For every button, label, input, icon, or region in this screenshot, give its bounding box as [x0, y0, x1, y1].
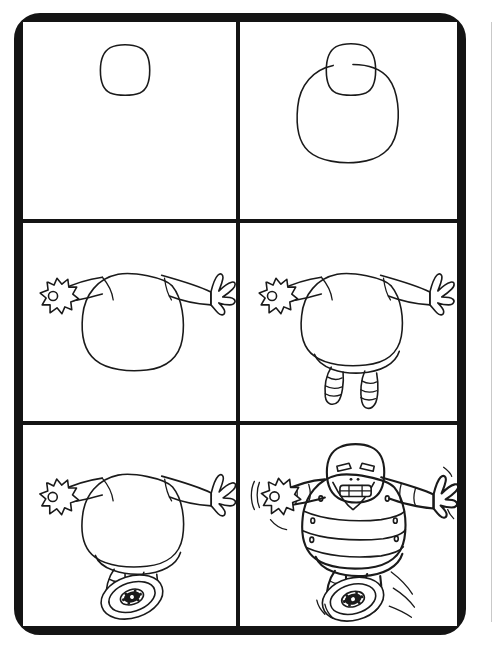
bolted-grin-icon	[340, 485, 371, 496]
panel-step-6[interactable]: Finish: add the face with slit eyes, nos…	[240, 425, 457, 626]
open-hand-icon	[434, 476, 457, 518]
panel-5-drawing	[23, 425, 236, 626]
nostril-left-icon	[350, 478, 353, 481]
saw-blade-hand-icon	[40, 479, 79, 515]
panel-step-1[interactable]: Draw the head: a small rounded dome shap…	[23, 22, 240, 223]
left-shoulder-seam	[321, 278, 332, 301]
drawing-tutorial-sheet: How to Draw a Robot Draw the head: a sma…	[0, 0, 496, 659]
panel-1-drawing	[23, 22, 236, 219]
panel-6-drawing	[240, 425, 457, 626]
open-hand-icon	[211, 274, 235, 315]
nostril-right-icon	[357, 478, 360, 481]
right-arm-icon	[381, 276, 430, 306]
adjacent-page-edge	[491, 22, 492, 622]
armor-bands-icon	[303, 511, 406, 556]
slit-eye-left-icon	[337, 463, 351, 471]
open-hand-icon	[211, 474, 235, 515]
body-outline-icon	[297, 64, 398, 162]
panel-4-drawing	[240, 223, 457, 420]
body-outline-icon	[82, 274, 183, 371]
panel-step-3[interactable]: Add both outstretched arms: left arm end…	[23, 223, 240, 424]
left-shoulder-seam	[102, 278, 113, 301]
open-hand-icon	[430, 274, 454, 315]
panel-step-4[interactable]: Add the waist band and two short segment…	[240, 223, 457, 424]
saw-blade-hand-icon	[261, 478, 300, 514]
left-shoulder-seam	[102, 478, 113, 501]
head-outline-icon	[100, 45, 149, 96]
right-arm-icon	[381, 477, 433, 508]
right-arm-icon	[162, 476, 212, 506]
panel-3-drawing	[23, 223, 236, 420]
panel-step-5[interactable]: Add the single unicycle wheel with a too…	[23, 425, 240, 626]
panel-step-2[interactable]: Add the body: a large rounded barrel sha…	[240, 22, 457, 223]
unicycle-wheel-icon	[317, 570, 388, 626]
face-icon	[337, 463, 374, 496]
panel-grid: Draw the head: a small rounded dome shap…	[23, 22, 457, 626]
saw-blade-hand-icon	[259, 279, 297, 315]
saw-blade-hand-icon	[40, 279, 78, 315]
head-outline-icon	[326, 44, 375, 96]
panel-2-drawing	[240, 22, 457, 219]
slit-eye-right-icon	[360, 463, 374, 471]
right-arm-icon	[162, 276, 211, 306]
body-outline-icon	[82, 474, 184, 567]
body-outline-icon	[301, 274, 402, 366]
